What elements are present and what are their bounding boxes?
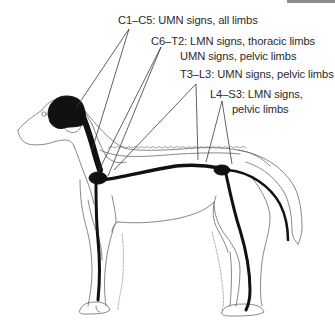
label-c6-t2-line-1: C6–T2: LMN signs, thoracic limbs (151, 35, 315, 48)
label-c6-t2: C6–T2: LMN signs, thoracic limbs UMN sig… (151, 35, 315, 63)
leader-t3-l3-a (114, 84, 196, 170)
label-c6-t2-line-2: UMN signs, pelvic limbs (151, 50, 315, 63)
dog-outline (18, 97, 302, 316)
label-c1-c5-line-1: C1–C5: UMN signs, all limbs (118, 14, 258, 26)
label-l4-s3-line-2: pelvic limbs (210, 103, 303, 116)
label-c1-c5: C1–C5: UMN signs, all limbs (118, 14, 258, 27)
nervous-system (48, 96, 288, 310)
leader-c1-c5-b (92, 29, 129, 150)
leader-t3-l3-b (196, 84, 198, 160)
leader-c1-c5-a (76, 29, 129, 108)
label-l4-s3: L4–S3: LMN signs, pelvic limbs (210, 88, 303, 116)
label-t3-l3-line-1: T3–L3: UMN signs, pelvic limbs (180, 68, 334, 80)
label-t3-l3: T3–L3: UMN signs, pelvic limbs (180, 68, 334, 81)
label-l4-s3-line-1: L4–S3: LMN signs, (210, 88, 303, 101)
